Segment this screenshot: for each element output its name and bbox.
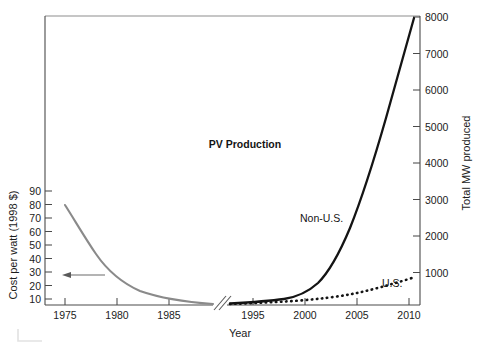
left-tick-label-70: 70 [29,212,41,224]
right-axis-tick-labels: 8000 7000 6000 5000 4000 3000 2000 1000 [425,11,449,279]
right-axis-title: Total MW produced [460,116,472,211]
x-tick-label-1980: 1980 [105,309,129,321]
series-label-us: U.S. [382,277,402,289]
x-tick-label-1975: 1975 [53,309,77,321]
x-tick-label-2010: 2010 [397,309,421,321]
right-tick-label-6000: 6000 [425,84,449,96]
chart-title: PV Production [209,138,281,150]
right-tick-label-7000: 7000 [425,48,449,60]
chart-figure: 90 80 70 60 50 40 30 20 10 Cost per watt… [0,0,501,350]
x-axis-tick-labels: 1975 1980 1985 1995 2000 2005 2010 [53,309,421,321]
left-tick-label-40: 40 [29,253,41,265]
left-axis-title: Cost per watt (1998 $) [7,191,19,300]
left-tick-label-10: 10 [29,293,41,305]
x-tick-label-2000: 2000 [293,309,317,321]
left-tick-label-60: 60 [29,226,41,238]
right-tick-label-3000: 3000 [425,194,449,206]
right-tick-label-4000: 4000 [425,157,449,169]
left-axis-tick-labels: 90 80 70 60 50 40 30 20 10 [29,185,41,305]
x-tick-label-1995: 1995 [241,309,265,321]
x-axis-title: Year [229,327,252,339]
left-tick-label-90: 90 [29,185,41,197]
right-tick-label-5000: 5000 [425,121,449,133]
series-label-non-us: Non-U.S. [300,212,343,224]
x-tick-label-2005: 2005 [345,309,369,321]
right-tick-label-2000: 2000 [425,230,449,242]
right-tick-label-1000: 1000 [425,267,449,279]
x-tick-label-1985: 1985 [157,309,181,321]
left-tick-label-50: 50 [29,239,41,251]
left-tick-label-30: 30 [29,266,41,278]
pv-production-chart: 90 80 70 60 50 40 30 20 10 Cost per watt… [0,0,501,350]
corner-registration-mark [18,329,42,341]
left-tick-label-20: 20 [29,280,41,292]
left-tick-label-80: 80 [29,199,41,211]
right-tick-label-8000: 8000 [425,11,449,23]
